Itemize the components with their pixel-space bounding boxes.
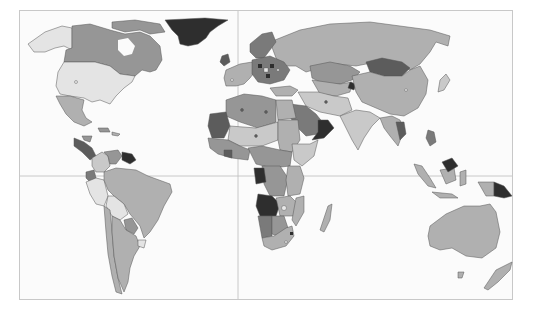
region-namibia[interactable] bbox=[258, 216, 272, 238]
region-mexico[interactable] bbox=[56, 96, 92, 126]
region-uk-ireland[interactable] bbox=[220, 54, 230, 66]
region-philippines[interactable] bbox=[426, 130, 436, 146]
region-caribbean[interactable] bbox=[98, 128, 110, 132]
region-india[interactable] bbox=[340, 110, 380, 150]
world-map bbox=[0, 0, 542, 314]
region-angola[interactable] bbox=[256, 194, 280, 216]
region-ethiopia-somalia[interactable] bbox=[292, 140, 318, 166]
region-greenland[interactable] bbox=[165, 18, 228, 46]
region-alaska[interactable] bbox=[28, 26, 72, 52]
region-madagascar[interactable] bbox=[320, 204, 332, 232]
region-mauritania-mali[interactable] bbox=[208, 112, 230, 138]
region-indonesia-java[interactable] bbox=[432, 192, 458, 198]
region-congo[interactable] bbox=[254, 168, 266, 184]
region-north-africa[interactable] bbox=[226, 94, 276, 128]
region-tasmania[interactable] bbox=[458, 272, 464, 278]
region-scandinavia[interactable] bbox=[250, 32, 276, 58]
region-sulawesi[interactable] bbox=[460, 170, 466, 186]
region-australia[interactable] bbox=[428, 204, 500, 258]
region-egypt[interactable] bbox=[276, 100, 296, 120]
region-turkey[interactable] bbox=[270, 86, 298, 96]
region-russia[interactable] bbox=[270, 22, 450, 72]
region-japan[interactable] bbox=[438, 74, 450, 92]
region-west-papua[interactable] bbox=[478, 182, 494, 196]
region-papua-new-guinea[interactable] bbox=[494, 182, 512, 198]
region-east-africa[interactable] bbox=[286, 166, 304, 196]
region-western-europe[interactable] bbox=[224, 62, 256, 86]
region-new-zealand[interactable] bbox=[484, 262, 512, 290]
region-guianas[interactable] bbox=[122, 152, 136, 164]
region-central-america[interactable] bbox=[74, 138, 96, 160]
region-arctic-islands[interactable] bbox=[112, 20, 165, 34]
